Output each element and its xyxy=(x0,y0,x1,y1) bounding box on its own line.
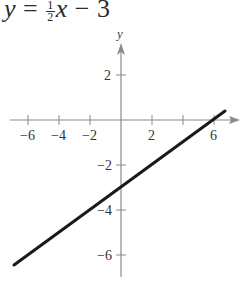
y-tick-label: 2 xyxy=(104,68,111,83)
x-tick-label: −4 xyxy=(51,128,66,143)
x-tick-label: −6 xyxy=(20,128,35,143)
y-tick-label: −4 xyxy=(97,203,112,218)
x-tick-label: 6 xyxy=(210,128,217,143)
coordinate-plane: y −6 −4 −2 2 6 2 −2 −4 −6 xyxy=(0,0,240,281)
x-tick-label: −2 xyxy=(82,128,97,143)
y-axis-label: y xyxy=(115,26,123,41)
y-tick-label: −6 xyxy=(97,248,112,263)
graph-line xyxy=(14,111,225,265)
y-tick-label: −2 xyxy=(97,158,112,173)
x-tick-label: 2 xyxy=(148,128,155,143)
